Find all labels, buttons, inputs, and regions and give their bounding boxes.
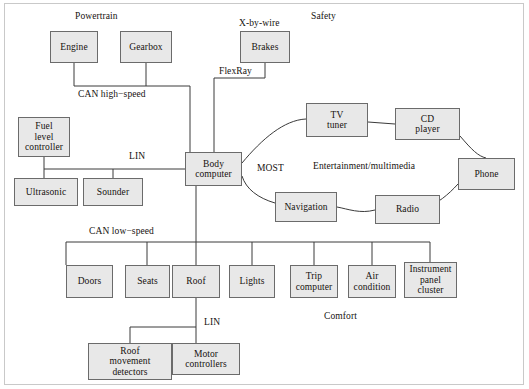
node-body-computer-label-line2: computer	[195, 169, 232, 180]
node-tv-tuner-label-line1: TV	[331, 110, 344, 121]
node-seats-label: Seats	[137, 276, 158, 287]
node-brakes[interactable]: Brakes	[240, 31, 290, 63]
node-fuel-level-controller[interactable]: Fuel level controller	[18, 117, 70, 157]
node-trip-computer-label-line1: Trip	[306, 271, 322, 282]
wire-most-navigation-to-body	[242, 176, 275, 203]
node-fuel-level-controller-label-line2: level	[35, 132, 54, 143]
group-label-entertainment-multimedia: Entertainment/multimedia	[313, 161, 415, 172]
node-roof-movement-detectors[interactable]: Roof movement detectors	[88, 343, 172, 380]
wire-most-cd-player-to-phone	[460, 136, 486, 158]
node-gearbox[interactable]: Gearbox	[120, 31, 172, 63]
node-fuel-level-controller-label-line1: Fuel	[35, 121, 52, 132]
node-trip-computer-label-line2: computer	[296, 282, 333, 293]
node-instrument-panel-cluster-label-line1: Instrument	[409, 264, 451, 275]
bus-label-flexray: FlexRay	[219, 66, 252, 77]
node-motor-controllers-label-line2: controllers	[185, 359, 227, 370]
node-ultrasonic-label: Ultrasonic	[26, 187, 67, 198]
node-ultrasonic[interactable]: Ultrasonic	[14, 178, 78, 206]
node-air-condition-label-line1: Air	[366, 271, 379, 282]
node-tv-tuner-label-line2: tuner	[327, 120, 347, 131]
node-roof-label: Roof	[186, 276, 205, 287]
group-label-x-by-wire: X-by-wire	[239, 18, 279, 29]
node-tv-tuner[interactable]: TV tuner	[306, 103, 368, 137]
node-doors-label: Doors	[78, 276, 102, 287]
node-instrument-panel-cluster[interactable]: Instrument panel cluster	[404, 262, 457, 298]
node-seats[interactable]: Seats	[125, 265, 170, 298]
node-motor-controllers-label-line1: Motor	[194, 349, 218, 360]
node-radio-label: Radio	[396, 204, 419, 215]
group-label-comfort: Comfort	[324, 311, 357, 322]
node-brakes-label: Brakes	[252, 42, 279, 53]
node-cd-player-label-line2: player	[415, 124, 439, 135]
node-body-computer-label-line1: Body	[203, 159, 224, 170]
node-roof[interactable]: Roof	[172, 265, 220, 298]
node-roof-movement-detectors-label-line1: Roof	[120, 346, 139, 357]
node-body-computer[interactable]: Body computer	[185, 152, 242, 186]
node-engine-label: Engine	[60, 42, 88, 53]
node-air-condition-label-line2: condition	[354, 282, 391, 293]
bus-label-lin-body: LIN	[129, 151, 145, 162]
node-sounder-label: Sounder	[97, 187, 129, 198]
group-label-safety: Safety	[311, 11, 336, 22]
node-instrument-panel-cluster-label-line2: panel	[420, 275, 441, 286]
node-roof-movement-detectors-label-line3: detectors	[112, 367, 147, 378]
node-roof-movement-detectors-label-line2: movement	[110, 356, 151, 367]
node-air-condition[interactable]: Air condition	[348, 265, 396, 298]
node-navigation-label: Navigation	[284, 202, 327, 213]
node-instrument-panel-cluster-label-line3: cluster	[417, 285, 443, 296]
node-lights-label: Lights	[240, 276, 265, 287]
node-radio[interactable]: Radio	[375, 195, 440, 224]
bus-label-most: MOST	[257, 163, 284, 174]
node-gearbox-label: Gearbox	[129, 42, 162, 53]
node-trip-computer[interactable]: Trip computer	[290, 265, 338, 298]
node-cd-player-label-line1: CD	[421, 114, 434, 125]
network-architecture-diagram: Powertrain X-by-wire Safety Entertainmen…	[0, 0, 529, 389]
wire-most-body-to-tv-tuner	[242, 119, 306, 163]
bus-label-lin-roof: LIN	[204, 317, 220, 328]
node-fuel-level-controller-label-line3: controller	[25, 142, 63, 153]
node-phone[interactable]: Phone	[458, 158, 515, 190]
node-navigation[interactable]: Navigation	[275, 192, 337, 222]
node-lights[interactable]: Lights	[229, 265, 275, 298]
group-label-powertrain: Powertrain	[75, 11, 118, 22]
node-phone-label: Phone	[474, 169, 498, 180]
node-sounder[interactable]: Sounder	[83, 178, 143, 206]
node-engine[interactable]: Engine	[50, 31, 98, 63]
node-motor-controllers[interactable]: Motor controllers	[172, 343, 240, 375]
wire-most-tv-tuner-to-cd-player	[368, 122, 395, 124]
bus-label-can-low-speed: CAN low−speed	[89, 226, 154, 237]
node-doors[interactable]: Doors	[66, 265, 113, 298]
wire-most-radio-to-navigation	[337, 207, 375, 212]
node-cd-player[interactable]: CD player	[395, 108, 460, 140]
bus-label-can-high-speed: CAN high−speed	[78, 89, 146, 100]
